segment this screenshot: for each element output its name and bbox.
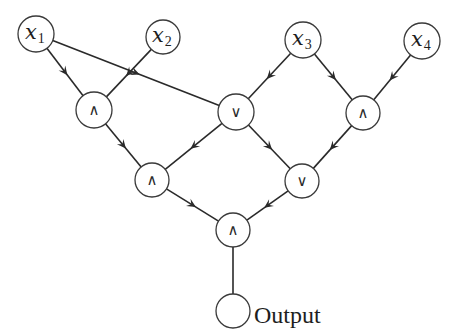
input-node-x4: x4 [404, 23, 440, 59]
edges-layer [47, 41, 411, 294]
output-label: Output [254, 302, 321, 328]
and-symbol-icon: ∧ [147, 171, 158, 189]
input-node-x1: x1 [18, 16, 54, 52]
edge-or1-to-or2 [248, 125, 290, 169]
edge-x3-to-and2 [314, 54, 352, 100]
and-symbol-icon: ∧ [228, 221, 239, 239]
and-gate-and4: ∧ [216, 213, 250, 247]
edge-x1-to-and1 [47, 48, 83, 95]
input-node-x3: x3 [285, 22, 321, 58]
or-symbol-icon: ∨ [297, 172, 308, 190]
edge-x3-to-or1 [248, 53, 290, 99]
nodes-layer: x1x2x3x4∧∨∧∧∨∧Output [18, 16, 440, 328]
edge-x2-to-and1 [106, 49, 151, 97]
output-node: Output [216, 294, 321, 328]
edge-x4-to-and2 [374, 55, 411, 100]
and-gate-and3: ∧ [135, 163, 169, 197]
arrowhead-icon [186, 199, 196, 207]
node-circle [216, 294, 250, 328]
edge-and1-to-and3 [105, 124, 141, 167]
and-gate-and1: ∧ [76, 92, 112, 128]
or-gate-or2: ∨ [285, 164, 319, 198]
input-node-x2: x2 [146, 20, 180, 54]
circuit-diagram: x1x2x3x4∧∨∧∧∨∧Output [0, 0, 453, 334]
edge-or2-to-and4 [247, 191, 288, 220]
edge-and2-to-or2 [313, 126, 351, 169]
or-gate-or1: ∨ [218, 94, 254, 130]
and-gate-and2: ∧ [346, 96, 380, 130]
edge-and3-to-and4 [166, 189, 218, 221]
or-symbol-icon: ∨ [231, 103, 242, 121]
and-symbol-icon: ∧ [358, 104, 369, 122]
and-symbol-icon: ∧ [89, 101, 100, 119]
edge-x1-to-or1 [53, 41, 219, 106]
edge-or1-to-and3 [165, 123, 222, 169]
